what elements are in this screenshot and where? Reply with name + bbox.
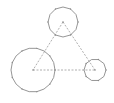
vertex-marker (12, 77, 13, 78)
vertex-marker (105, 69, 106, 70)
vertex-marker (85, 63, 86, 64)
vertex-marker (55, 34, 56, 35)
center-point-right (94, 69, 96, 71)
vertex-marker (21, 50, 22, 51)
vertex-marker (98, 80, 99, 81)
edge-top-bottom-left (33, 22, 63, 70)
vertex-marker (36, 48, 37, 49)
edge-top-right (63, 22, 95, 70)
diagram-canvas (0, 0, 114, 103)
vertex-marker (70, 34, 71, 35)
vertex-marker (70, 8, 71, 9)
vertex-marker (98, 59, 99, 60)
vertex-marker (85, 76, 86, 77)
vertex-marker (54, 69, 55, 70)
center-point-bottom-left (32, 69, 34, 71)
vertex-marker (49, 83, 50, 84)
vertex-marker (47, 21, 48, 22)
vertex-marker (49, 55, 50, 56)
center-point-top (62, 21, 64, 23)
vertex-marker (12, 62, 13, 63)
vertex-marker (77, 21, 78, 22)
vertex-marker (55, 8, 56, 9)
vertex-marker (21, 88, 22, 89)
vertex-marker (36, 91, 37, 92)
